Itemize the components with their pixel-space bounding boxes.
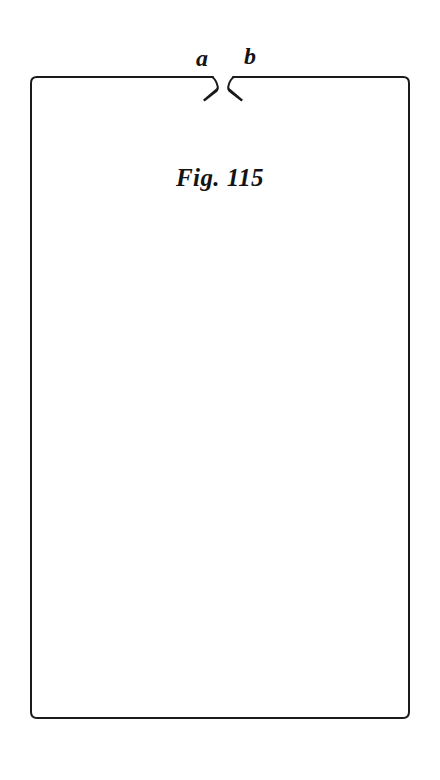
figure-drawing — [0, 0, 440, 780]
point-label-b: b — [244, 44, 256, 68]
notch-flap-right — [227, 76, 243, 102]
point-label-a: a — [196, 46, 208, 70]
notch-flap-left — [203, 76, 219, 102]
figure-caption: Fig. 115 — [0, 165, 440, 190]
figure-stage: a b Fig. 115 — [0, 0, 440, 780]
